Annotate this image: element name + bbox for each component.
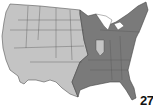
page-number: 27 bbox=[140, 93, 153, 108]
us-map bbox=[0, 0, 153, 111]
